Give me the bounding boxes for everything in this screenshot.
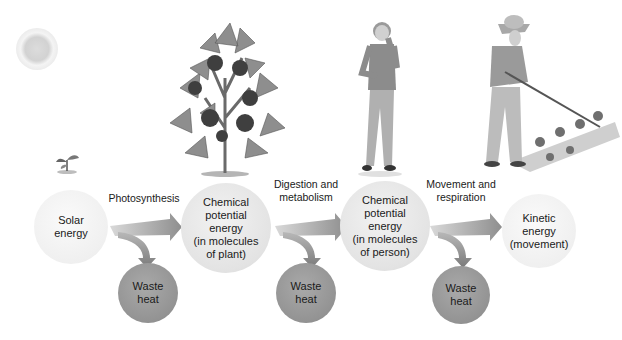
process-label-photosynthesis: Photosynthesis	[104, 192, 184, 205]
node-solar-energy-label: Solar energy	[54, 214, 88, 240]
node-plant-chemical-energy: Chemical potential energy (in molecules …	[181, 183, 271, 273]
waste-heat-label-1: Waste heat	[133, 280, 164, 306]
digestion-arrow	[275, 213, 347, 268]
movement-arrow	[430, 213, 502, 268]
photosynthesis-arrow	[110, 213, 182, 268]
node-person-chemical-energy: Chemical potential energy (in molecules …	[340, 181, 430, 271]
waste-heat-label-2: Waste heat	[291, 280, 322, 306]
node-kinetic-energy: Kinetic energy (movement)	[502, 194, 576, 268]
node-person-chemical-energy-label: Chemical potential energy (in molecules …	[353, 194, 418, 259]
node-plant-chemical-energy-label: Chemical potential energy (in molecules …	[194, 196, 259, 261]
process-label-digestion: Digestion and metabolism	[266, 178, 346, 204]
node-solar-energy: Solar energy	[34, 190, 108, 264]
waste-heat-node-3: Waste heat	[432, 266, 490, 324]
node-kinetic-energy-label: Kinetic energy (movement)	[510, 212, 569, 251]
process-label-movement: Movement and respiration	[420, 178, 502, 204]
waste-heat-node-1: Waste heat	[118, 263, 178, 323]
waste-heat-node-2: Waste heat	[276, 263, 336, 323]
waste-heat-label-3: Waste heat	[446, 282, 477, 308]
